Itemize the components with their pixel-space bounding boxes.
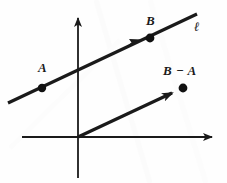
point-a-dot (38, 84, 46, 92)
point-b-dot (146, 34, 155, 43)
line-l-label: ℓ (194, 20, 200, 33)
background-watermark (10, 0, 206, 183)
diagram-canvas (0, 0, 227, 183)
point-b-label: B (146, 14, 155, 27)
point-b-minus-a-dot (179, 84, 188, 93)
point-a-label: A (38, 61, 47, 74)
line-l-arrowhead (126, 39, 142, 47)
vector-diagram-figure: A B B − A ℓ (0, 0, 227, 183)
difference-vector-label: B − A (163, 64, 197, 77)
